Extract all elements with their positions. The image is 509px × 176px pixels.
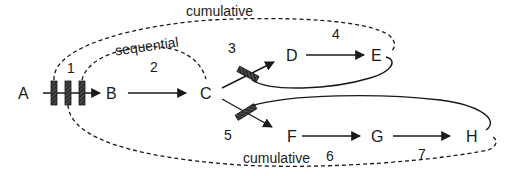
step-number-1: 1	[67, 60, 75, 76]
node-c: C	[200, 85, 212, 102]
inhibition-bar-2	[65, 81, 71, 105]
feedback-loop-h	[251, 96, 490, 130]
node-b: B	[106, 85, 117, 102]
step-number-5: 5	[224, 127, 232, 143]
node-a: A	[18, 85, 29, 102]
cumulative-bottom-label: cumulative	[243, 150, 310, 166]
step-number-4: 4	[332, 26, 340, 42]
sequential-label: sequential	[114, 34, 179, 59]
node-e: E	[371, 47, 382, 64]
cumulative-top-path	[54, 19, 395, 80]
node-d: D	[286, 47, 298, 64]
pathway-diagram: A B C D E F G H 1 2 3 4 5 6 7 sequential…	[0, 0, 509, 176]
node-h: H	[466, 128, 478, 145]
step-number-2: 2	[150, 59, 158, 75]
cumulative-top-label: cumulative	[186, 3, 253, 19]
step-number-6: 6	[326, 148, 334, 164]
step-number-3: 3	[228, 40, 236, 56]
node-g: G	[371, 128, 383, 145]
inhibition-bar-c-f	[235, 104, 257, 121]
inhibition-bar-1	[51, 81, 57, 105]
inhibition-bar-3	[79, 81, 85, 105]
node-f: F	[287, 128, 297, 145]
